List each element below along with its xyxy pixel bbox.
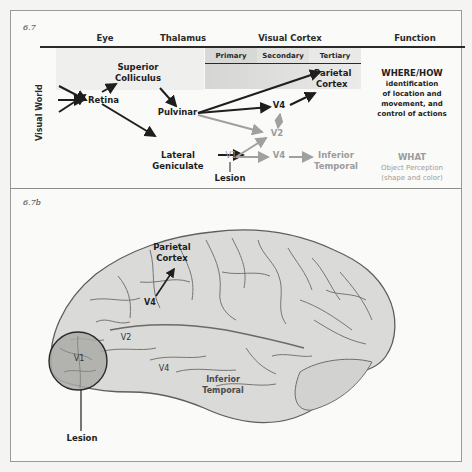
brain-label-inferior-temporal: Inferior Temporal <box>198 374 248 396</box>
brain-label-parietal-cortex: Parietal Cortex <box>150 242 194 264</box>
brain-label-v1: V1 <box>71 353 87 364</box>
brain-label-v4-dorsal: V4 <box>142 297 158 308</box>
brain-label-v4-ventral: V4 <box>156 363 172 374</box>
brain-label-v2: V2 <box>118 332 134 343</box>
brain-drawing <box>0 0 472 472</box>
brain-label-lesion: Lesion <box>62 433 102 444</box>
